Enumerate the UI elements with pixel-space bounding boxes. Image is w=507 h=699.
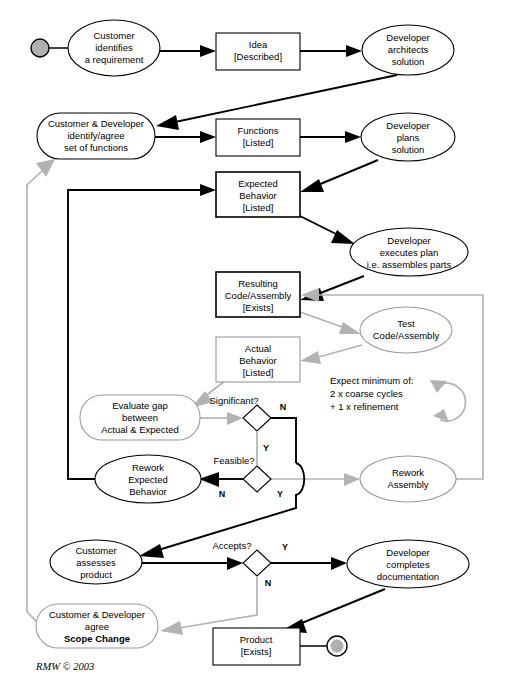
node-resulting-code-line-1: Code/Assembly bbox=[225, 290, 292, 301]
node-scope-change-bold-line: Scope Change bbox=[64, 633, 130, 644]
node-idea-line-1: [Described] bbox=[234, 51, 282, 62]
node-product: Product [Exists] bbox=[213, 628, 300, 665]
node-actual-behavior-line-0: Actual bbox=[245, 343, 271, 354]
node-expected-behavior-line-0: Expected bbox=[238, 178, 278, 189]
node-developer-completes-line-0: Developer bbox=[386, 547, 429, 558]
edge-accepts-yes bbox=[271, 557, 347, 570]
node-test-code-line-0: Test bbox=[397, 318, 415, 329]
edge-functions-to-developer-plans bbox=[300, 131, 361, 143]
node-developer-architects-line-2: solution bbox=[392, 56, 425, 67]
node-expected-behavior-line-2: [Listed] bbox=[243, 202, 274, 213]
node-cust-dev-functions: Customer & Developer identify/agree set … bbox=[37, 113, 155, 159]
decision-significant-yes: Y bbox=[263, 443, 269, 453]
node-rework-expected-line-1: Expected bbox=[128, 474, 168, 485]
edge-feasible-no bbox=[199, 472, 243, 487]
copyright-credit: RMW © 2003 bbox=[35, 661, 94, 672]
node-developer-plans-line-0: Developer bbox=[386, 120, 429, 131]
node-rework-assembly-line-1: Assembly bbox=[387, 479, 428, 490]
node-product-line-1: [Exists] bbox=[241, 646, 272, 657]
decision-feasible-no: N bbox=[219, 489, 226, 499]
node-cust-dev-functions-line-0: Customer & Developer bbox=[48, 118, 144, 129]
node-developer-executes: Developer executes plan i.e. assembles p… bbox=[350, 228, 468, 276]
node-evaluate-gap-line-2: Actual & Expected bbox=[101, 424, 179, 435]
node-customer-identifies: Customer identifies a requirement bbox=[68, 20, 160, 76]
node-customer-identifies-line-0: Customer bbox=[93, 30, 134, 41]
node-resulting-code-line-0: Resulting bbox=[238, 278, 278, 289]
node-resulting-code: Resulting Code/Assembly [Exists] bbox=[216, 272, 300, 317]
node-expected-behavior-line-1: Behavior bbox=[239, 190, 277, 201]
node-test-code-line-1: Code/Assembly bbox=[373, 330, 440, 341]
edge-test-code-to-actual-behavior bbox=[300, 345, 362, 364]
node-rework-expected-line-0: Rework bbox=[132, 462, 164, 473]
node-scope-change-line-1: agree bbox=[85, 621, 109, 632]
node-resulting-code-line-2: [Exists] bbox=[243, 302, 274, 313]
edge-accepts-no bbox=[160, 577, 257, 635]
node-functions-line-0: Functions bbox=[237, 125, 278, 136]
edge-customer-identifies-to-idea bbox=[160, 45, 216, 57]
iteration-loop-icon bbox=[430, 380, 466, 422]
edge-expected-behavior-to-developer-executes bbox=[300, 216, 355, 244]
node-developer-architects-line-0: Developer bbox=[386, 32, 429, 43]
node-cust-dev-functions-line-1: identify/agree bbox=[67, 130, 124, 141]
node-developer-completes-line-1: completes bbox=[386, 559, 430, 570]
node-developer-architects-line-1: architects bbox=[388, 44, 429, 55]
node-developer-executes-line-1: executes plan bbox=[380, 247, 439, 258]
edge-resulting-code-to-test-code bbox=[300, 312, 361, 334]
edge-customer-assesses-to-accepts bbox=[142, 557, 243, 570]
node-idea: Idea [Described] bbox=[216, 33, 300, 70]
start-terminator bbox=[31, 39, 49, 57]
node-developer-executes-line-0: Developer bbox=[387, 235, 430, 246]
edge-developer-completes-to-product bbox=[281, 589, 385, 633]
edge-cust-dev-functions-to-functions bbox=[155, 131, 216, 143]
node-rework-expected-behavior: Rework Expected Behavior bbox=[95, 455, 201, 503]
edge-evaluate-gap-to-significant bbox=[200, 412, 243, 425]
node-idea-line-0: Idea bbox=[249, 39, 268, 50]
flowchart-canvas: Customer identifies a requirement Idea [… bbox=[0, 0, 507, 699]
note-line-2: + 1 x refinement bbox=[330, 401, 399, 412]
decision-significant: Significant? N Y bbox=[209, 395, 286, 453]
node-developer-plans-line-2: solution bbox=[392, 144, 425, 155]
node-developer-completes-line-2: documentation bbox=[377, 571, 439, 582]
node-product-line-0: Product bbox=[240, 634, 273, 645]
note-line-1: 2 x coarse cycles bbox=[330, 388, 403, 399]
decision-accepts: Accepts? Y N bbox=[212, 540, 288, 588]
node-evaluate-gap-line-1: between bbox=[122, 412, 158, 423]
node-functions: Functions [Listed] bbox=[216, 119, 300, 156]
decision-significant-label: Significant? bbox=[209, 395, 258, 406]
node-cust-dev-functions-line-2: set of functions bbox=[64, 142, 128, 153]
edge-developer-plans-to-expected-behavior bbox=[300, 160, 378, 192]
node-scope-change: Customer & Developer agree Scope Change bbox=[36, 604, 158, 648]
node-expected-behavior: Expected Behavior [Listed] bbox=[216, 172, 300, 217]
node-rework-expected-line-2: Behavior bbox=[129, 486, 167, 497]
decision-significant-no: N bbox=[280, 402, 287, 412]
decision-feasible-yes: Y bbox=[277, 489, 283, 499]
node-customer-assesses-line-0: Customer bbox=[75, 545, 116, 556]
node-scope-change-line-0: Customer & Developer bbox=[49, 609, 145, 620]
edge-scope-change-to-cust-dev-functions bbox=[27, 159, 55, 622]
edge-significant-no bbox=[271, 418, 296, 463]
node-customer-identifies-line-1: identifies bbox=[95, 42, 133, 53]
node-rework-assembly-line-0: Rework bbox=[392, 467, 424, 478]
node-customer-assesses-line-2: product bbox=[80, 569, 112, 580]
node-actual-behavior: Actual Behavior [Listed] bbox=[216, 337, 300, 382]
node-functions-line-1: [Listed] bbox=[243, 137, 274, 148]
end-terminator bbox=[327, 636, 347, 656]
node-evaluate-gap: Evaluate gap between Actual & Expected bbox=[80, 395, 200, 440]
node-rework-assembly: Rework Assembly bbox=[360, 456, 456, 502]
credit-text: RMW © 2003 bbox=[35, 661, 94, 672]
edge-idea-to-developer-architects bbox=[300, 45, 362, 57]
decision-feasible-label: Feasible? bbox=[213, 455, 254, 466]
edge-feasible-yes bbox=[271, 473, 360, 486]
node-developer-plans-line-1: plans bbox=[397, 132, 420, 143]
decision-accepts-label: Accepts? bbox=[212, 540, 251, 551]
node-developer-plans: Developer plans solution bbox=[361, 113, 455, 161]
node-customer-assesses-line-1: assesses bbox=[76, 557, 116, 568]
node-test-code: Test Code/Assembly bbox=[360, 307, 452, 353]
note-expect-minimum: Expect minimum of: 2 x coarse cycles + 1… bbox=[330, 375, 413, 412]
decision-accepts-yes: Y bbox=[282, 542, 288, 552]
node-customer-identifies-line-2: a requirement bbox=[85, 54, 144, 65]
node-evaluate-gap-line-0: Evaluate gap bbox=[112, 400, 167, 411]
note-line-0: Expect minimum of: bbox=[330, 375, 413, 386]
decision-feasible: Feasible? N Y bbox=[213, 455, 283, 499]
decision-accepts-no: N bbox=[265, 578, 272, 588]
